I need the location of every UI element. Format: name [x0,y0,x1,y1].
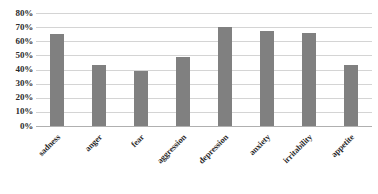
x-axis-tick: anger [78,126,120,194]
y-axis: 80%70%60%50%40%30%20%10%0% [0,0,36,136]
bar-slot [288,13,330,126]
x-axis-tick-label-text: sadness [36,132,62,158]
y-axis-tick-label: 70% [0,23,33,32]
y-axis-tick-label: 60% [0,37,33,46]
y-axis-tick-label: 30% [0,79,33,88]
bar[interactable] [134,71,148,126]
bar[interactable] [260,31,274,126]
x-axis-tick: irritability [288,126,330,194]
bar[interactable] [92,65,106,126]
x-axis-tick-label-text: anger [83,132,104,153]
bar[interactable] [176,57,190,126]
bar[interactable] [302,33,316,126]
y-axis-tick-label: 0% [0,122,33,131]
x-axis-tick: depression [204,126,246,194]
bar-slot [36,13,78,126]
bar-slot [78,13,120,126]
x-axis-tick-label-text: appetite [329,132,356,159]
y-axis-tick-label: 10% [0,107,33,116]
x-axis-tick-label-text: fear [129,132,146,149]
bar-slot [162,13,204,126]
y-axis-tick-label: 50% [0,51,33,60]
y-axis-tick-label: 80% [0,9,33,18]
bar[interactable] [218,27,232,126]
y-axis-tick-label: 40% [0,65,33,74]
y-axis-tick-label: 20% [0,93,33,102]
bar[interactable] [344,65,358,126]
x-axis-tick: appetite [330,126,372,194]
x-axis-tick: sadness [36,126,78,194]
bar-slot [120,13,162,126]
bar-chart: 80%70%60%50%40%30%20%10%0% sadnessangerf… [0,0,378,194]
bar[interactable] [50,34,64,126]
x-axis-tick-label-text: anxiety [247,132,272,157]
x-axis: sadnessangerfearaggressiondepressionanxi… [36,126,372,194]
